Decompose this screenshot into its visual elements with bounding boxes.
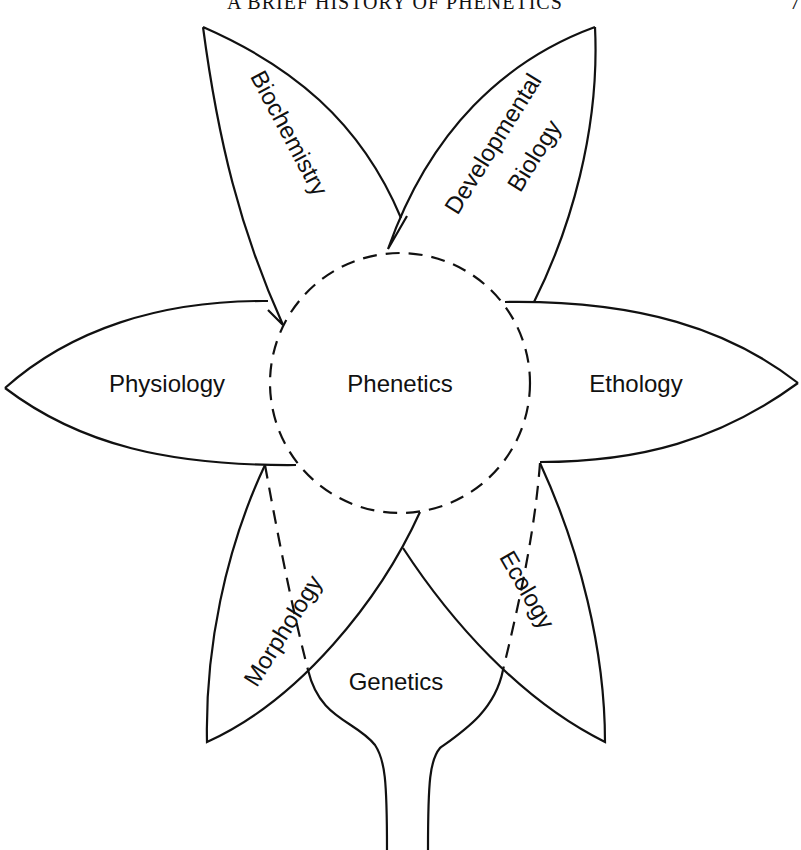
petal-genetics — [308, 670, 503, 850]
petal-ecology — [403, 463, 605, 742]
label-ethology: Ethology — [589, 370, 682, 397]
phenetics-flower-diagram: Phenetics Physiology Ethology Genetics B… — [0, 0, 801, 850]
label-morphology: Morphology — [238, 570, 327, 691]
label-physiology: Physiology — [109, 370, 225, 397]
label-biochemistry: Biochemistry — [245, 66, 333, 200]
label-phenetics: Phenetics — [347, 370, 452, 397]
label-genetics: Genetics — [349, 668, 444, 695]
